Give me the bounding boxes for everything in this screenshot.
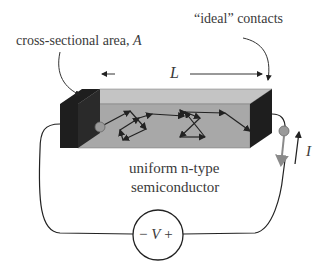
source-variable: V bbox=[151, 226, 160, 242]
source-minus: − bbox=[139, 226, 147, 242]
right-node bbox=[279, 126, 289, 136]
area-label-text: cross-sectional area, bbox=[16, 33, 133, 48]
material-label-line1: uniform n-type bbox=[129, 160, 219, 177]
material-label-line2: semiconductor bbox=[131, 179, 219, 196]
source-plus: + bbox=[164, 226, 172, 242]
bar-top-face bbox=[78, 89, 272, 104]
voltage-label: − V + bbox=[139, 226, 173, 243]
current-direction-arrow bbox=[295, 132, 299, 164]
area-variable: A bbox=[133, 33, 142, 48]
length-label: L bbox=[170, 64, 179, 82]
contacts-label: “ideal” contacts bbox=[194, 11, 283, 27]
left-node bbox=[95, 122, 105, 132]
current-flow-arrow bbox=[281, 136, 284, 165]
current-label: I bbox=[306, 143, 311, 160]
area-label: cross-sectional area, A bbox=[16, 33, 142, 49]
area-callout bbox=[59, 52, 80, 95]
